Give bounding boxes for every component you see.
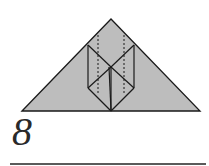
step-number: 8 xyxy=(12,112,32,152)
divider-rule xyxy=(10,163,206,165)
